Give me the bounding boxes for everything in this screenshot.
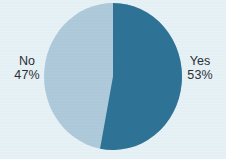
pie-label-no: No 47% [6,54,48,82]
pie-chart-container: No 47% Yes 53% [0,0,226,159]
pie-label-yes-name: Yes [178,54,222,68]
pie-label-no-name: No [6,54,48,68]
pie-label-yes-value: 53% [178,68,222,82]
pie-label-yes: Yes 53% [178,54,222,82]
pie-label-no-value: 47% [6,68,48,82]
